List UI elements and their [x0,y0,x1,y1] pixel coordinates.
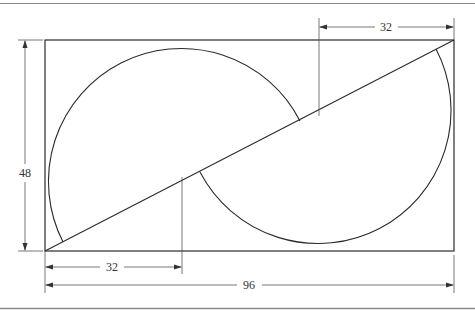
total-width-dimension: 96 [45,278,454,292]
height-label: 48 [19,166,31,180]
arrow-down-icon [23,243,28,251]
arrow-right-icon [446,283,454,288]
arrow-left-icon [45,283,53,288]
total-width-label: 96 [243,278,255,292]
arrow-left-icon [45,265,53,270]
arrow-right-icon [174,265,182,270]
drawing-canvas: 48 32 32 96 [0,0,475,310]
arrow-right-icon [446,25,454,30]
height-dimension: 48 [19,40,31,251]
arrow-left-icon [319,25,327,30]
left-arc [48,48,300,242]
top-offset-dimension: 32 [319,20,454,34]
top-offset-label: 32 [380,20,392,34]
right-arc [200,49,451,244]
bottom-offset-label: 32 [106,260,118,274]
arrow-up-icon [23,40,28,48]
bottom-offset-dimension: 32 [45,260,182,274]
